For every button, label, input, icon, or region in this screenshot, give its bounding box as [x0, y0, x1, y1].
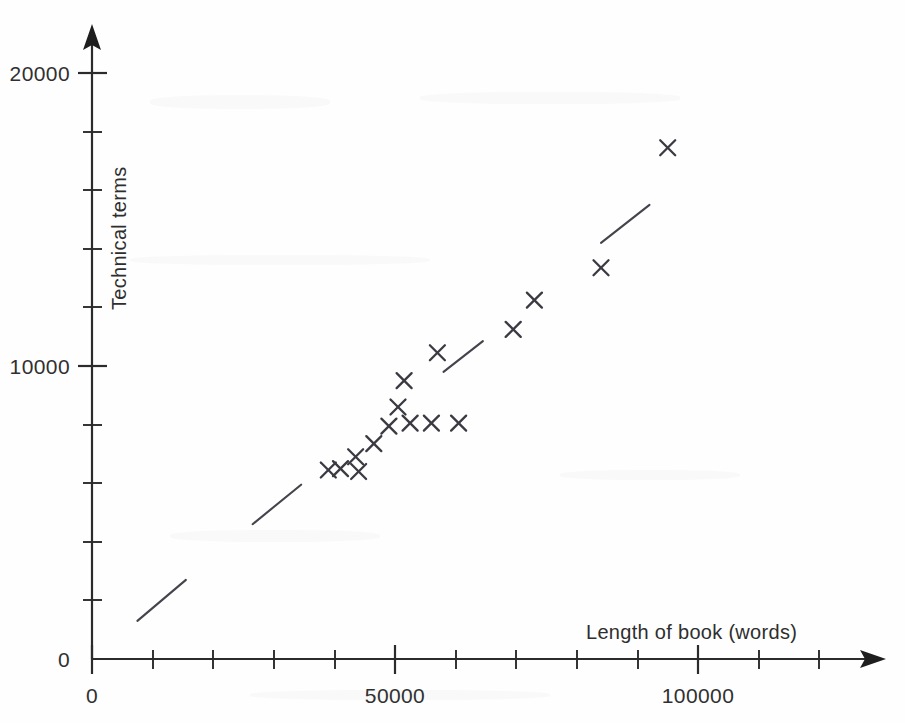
x-axis: 0 50000 100000 Length of book (words): [86, 621, 886, 707]
data-point-marker: [403, 416, 418, 431]
data-point-marker: [391, 400, 406, 415]
data-point-marker: [506, 322, 521, 337]
data-point-marker: [594, 260, 609, 275]
y-tick-label-20000: 20000: [10, 62, 70, 85]
data-point-marker: [333, 461, 348, 476]
data-point-marker: [660, 140, 675, 155]
y-axis: 20000 10000 0 Technical terms: [10, 24, 130, 671]
data-point-markers: [321, 140, 675, 479]
data-point-marker: [381, 419, 396, 434]
data-point-marker: [366, 436, 381, 451]
data-point-marker: [430, 345, 445, 360]
trend-line-segment: [601, 205, 650, 243]
data-point-marker: [451, 416, 466, 431]
y-tick-label-0: 0: [58, 648, 70, 671]
data-point-marker: [351, 464, 366, 479]
data-point-marker: [348, 449, 363, 464]
x-tick-label-0: 0: [86, 684, 98, 707]
y-axis-title: Technical terms: [108, 167, 130, 310]
data-point-marker: [397, 373, 412, 388]
data-point-marker: [527, 293, 542, 308]
x-tick-label-50000: 50000: [365, 684, 425, 707]
y-tick-label-10000: 10000: [10, 355, 70, 378]
x-tick-label-100000: 100000: [662, 684, 734, 707]
trend-line-segment: [444, 341, 483, 372]
x-axis-title: Length of book (words): [586, 621, 797, 643]
trend-line-segment: [137, 580, 186, 621]
scatter-plot: 20000 10000 0 Technical terms: [0, 0, 905, 723]
chart-page: 20000 10000 0 Technical terms: [0, 0, 905, 723]
data-point-marker: [424, 416, 439, 431]
trend-line-segment: [253, 485, 302, 525]
